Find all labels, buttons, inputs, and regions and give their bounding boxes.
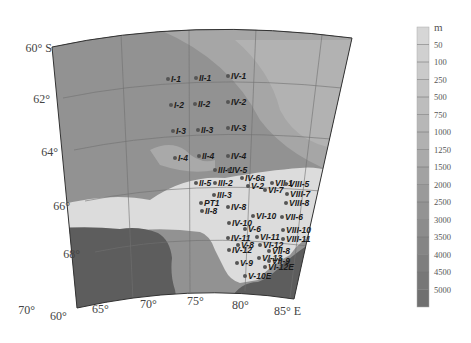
latitude-label: 68° bbox=[63, 247, 80, 261]
station-dot-icon bbox=[226, 236, 230, 240]
station-dot-icon bbox=[197, 154, 201, 158]
station-dot-icon bbox=[196, 128, 200, 132]
station-dot-icon bbox=[235, 261, 239, 265]
station-dot-icon bbox=[257, 256, 261, 260]
station-label: VI-7 bbox=[268, 185, 285, 195]
station-label: VII-6 bbox=[285, 212, 303, 222]
station-label: IV-8 bbox=[231, 202, 247, 212]
station-v-10e[interactable]: V-10E bbox=[243, 271, 272, 281]
legend-color-band bbox=[417, 27, 429, 45]
legend-tick-label: 2500 bbox=[434, 197, 451, 207]
legend-tick-label: 500 bbox=[434, 92, 447, 102]
legend-tick-label: 100 bbox=[434, 57, 447, 67]
legend-color-band bbox=[417, 272, 429, 290]
legend-color-band bbox=[417, 237, 429, 255]
legend-color-band bbox=[417, 97, 429, 115]
station-dot-icon bbox=[258, 243, 262, 247]
station-label: I-4 bbox=[178, 153, 188, 163]
latitude-label: 70° bbox=[18, 303, 35, 317]
station-label: I-2 bbox=[174, 100, 184, 110]
station-dot-icon bbox=[226, 154, 230, 158]
station-dot-icon bbox=[227, 221, 231, 225]
station-label: II-4 bbox=[202, 151, 215, 161]
legend-tick-label: 50 bbox=[434, 40, 443, 50]
legend-tick-label: 4000 bbox=[434, 250, 451, 260]
station-dot-icon bbox=[243, 227, 247, 231]
legend-tick-label: 4500 bbox=[434, 267, 451, 277]
legend-tick-label: 1000 bbox=[434, 127, 451, 137]
station-label: I-1 bbox=[171, 74, 181, 84]
station-dot-icon bbox=[246, 184, 250, 188]
legend-tick-label: 1500 bbox=[434, 162, 451, 172]
latitude-label: 64° bbox=[41, 145, 58, 159]
bathymetry-map: 60° S62°64°66°68°70°60°65°70°75°80°85° E… bbox=[0, 0, 471, 343]
station-dot-icon bbox=[263, 188, 267, 192]
station-label: II-5 bbox=[199, 178, 212, 188]
station-dot-icon bbox=[284, 201, 288, 205]
station-label: II-2 bbox=[198, 99, 211, 109]
station-dot-icon bbox=[227, 168, 231, 172]
station-label: II-1 bbox=[199, 73, 212, 83]
latitude-label: 66° bbox=[53, 199, 70, 213]
legend-color-band bbox=[417, 290, 429, 308]
station-label: V-10E bbox=[248, 271, 272, 281]
legend-tick-label: 750 bbox=[434, 110, 447, 120]
legend-color-band bbox=[417, 255, 429, 273]
station-dot-icon bbox=[169, 103, 173, 107]
station-dot-icon bbox=[213, 181, 217, 185]
legend-color-band bbox=[417, 45, 429, 63]
station-label: V-2 bbox=[251, 181, 264, 191]
legend-color-band bbox=[417, 185, 429, 203]
longitude-label: 65° bbox=[92, 302, 109, 316]
legend-color-band bbox=[417, 220, 429, 238]
legend-color-band bbox=[417, 167, 429, 185]
legend-color-band bbox=[417, 150, 429, 168]
depth-legend: m501002505007501000125015002000250030003… bbox=[417, 21, 451, 307]
longitude-label: 70° bbox=[140, 297, 157, 311]
station-label: IV-12 bbox=[232, 245, 252, 255]
station-viii-11[interactable]: VIII-11 bbox=[281, 234, 311, 244]
station-dot-icon bbox=[199, 201, 203, 205]
legend-color-band bbox=[417, 80, 429, 98]
legend-color-band bbox=[417, 202, 429, 220]
station-label: II-3 bbox=[201, 125, 214, 135]
station-label: VI-12E bbox=[268, 262, 294, 272]
station-label: VI-10 bbox=[256, 211, 277, 221]
station-label: VIII-11 bbox=[286, 234, 311, 244]
station-dot-icon bbox=[284, 182, 288, 186]
station-dot-icon bbox=[173, 156, 177, 160]
legend-color-band bbox=[417, 115, 429, 133]
station-dot-icon bbox=[226, 126, 230, 130]
station-dot-icon bbox=[200, 209, 204, 213]
station-dot-icon bbox=[193, 102, 197, 106]
station-dot-icon bbox=[226, 74, 230, 78]
station-dot-icon bbox=[212, 193, 216, 197]
station-dot-icon bbox=[171, 129, 175, 133]
legend-tick-label: 3500 bbox=[434, 232, 451, 242]
station-label: I-3 bbox=[176, 126, 186, 136]
longitude-label: 80° bbox=[232, 298, 249, 312]
longitude-label: 75° bbox=[187, 294, 204, 308]
station-label: VIII-5 bbox=[289, 179, 310, 189]
legend-tick-label: 5000 bbox=[434, 285, 451, 295]
station-dot-icon bbox=[213, 168, 217, 172]
station-dot-icon bbox=[194, 181, 198, 185]
station-label: IV-3 bbox=[231, 123, 247, 133]
station-dot-icon bbox=[285, 192, 289, 196]
station-dot-icon bbox=[226, 205, 230, 209]
station-label: III-2 bbox=[218, 178, 233, 188]
legend-tick-label: 250 bbox=[434, 75, 447, 85]
station-label: IV-2 bbox=[231, 97, 247, 107]
station-label: IV-1 bbox=[231, 71, 247, 81]
station-label: VIII-8 bbox=[289, 198, 310, 208]
latitude-label: 62° bbox=[33, 92, 50, 106]
station-dot-icon bbox=[281, 228, 285, 232]
station-dot-icon bbox=[240, 176, 244, 180]
station-dot-icon bbox=[226, 100, 230, 104]
station-dot-icon bbox=[227, 248, 231, 252]
station-dot-icon bbox=[255, 235, 259, 239]
station-label: IV-4 bbox=[231, 151, 247, 161]
station-dot-icon bbox=[166, 77, 170, 81]
station-label: V-9 bbox=[240, 258, 253, 268]
legend-tick-label: 2000 bbox=[434, 180, 451, 190]
